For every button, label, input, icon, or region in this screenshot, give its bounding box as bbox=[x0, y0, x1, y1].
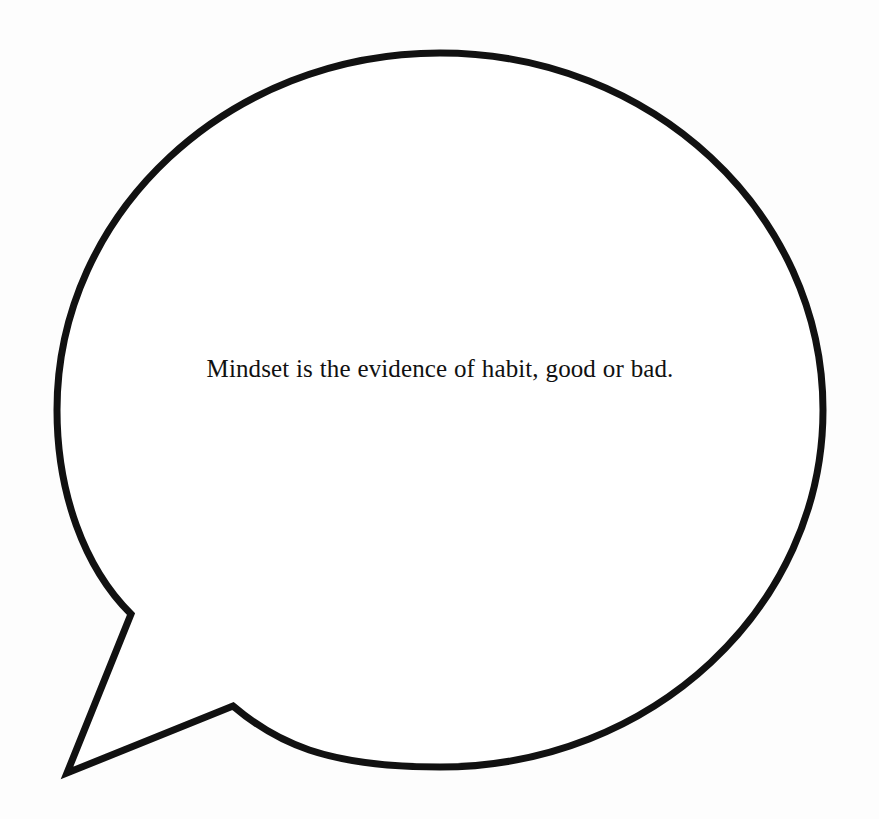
speech-bubble-graphic bbox=[0, 0, 879, 819]
quote-text: Mindset is the evidence of habit, good o… bbox=[190, 350, 690, 388]
speech-bubble-outline[interactable] bbox=[57, 53, 823, 773]
speech-bubble-shape-group bbox=[57, 53, 823, 773]
bubble-canvas: Mindset is the evidence of habit, good o… bbox=[0, 0, 879, 819]
